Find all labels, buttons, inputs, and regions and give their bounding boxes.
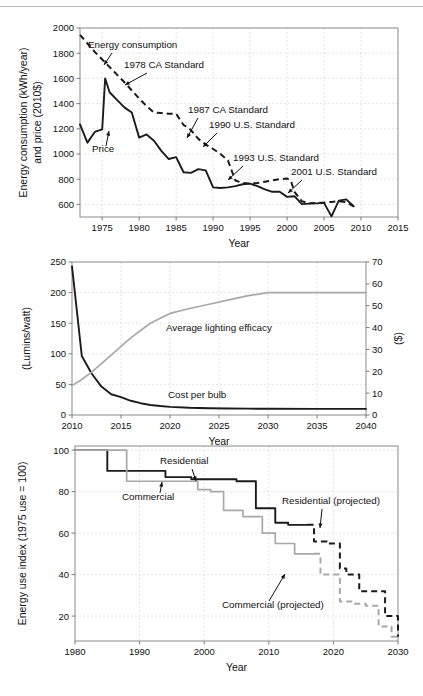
series-residential-projected xyxy=(308,525,398,637)
x-tick-label: 2000 xyxy=(194,646,215,657)
figure-root: 6008001000120014001600180020001975198019… xyxy=(0,0,423,696)
x-tick-label: 2030 xyxy=(257,420,278,431)
annotation-label: Cost per bulb xyxy=(168,389,227,400)
y-axis-title-line2: and price (2010$) xyxy=(31,81,43,163)
y-axis-right-title: ($) xyxy=(392,332,404,345)
panel-bottom: 20406080100198019902000201020202030Resid… xyxy=(16,445,409,673)
annotation-label: Price xyxy=(92,143,115,154)
y-tick-label: 1200 xyxy=(53,123,74,134)
annotation-arrowhead xyxy=(159,482,163,487)
x-tick-label: 1975 xyxy=(92,222,113,233)
x-tick-label: 2015 xyxy=(110,420,131,431)
y-tick-label: 0 xyxy=(61,409,66,420)
x-tick-label: 2030 xyxy=(387,646,408,657)
y-right-tick-label: 40 xyxy=(372,322,383,333)
x-tick-label: 2000 xyxy=(276,222,297,233)
x-tick-label: 2010 xyxy=(350,222,371,233)
annotation-label: Energy consumption xyxy=(88,39,177,50)
x-axis-title: Year xyxy=(226,661,248,673)
y-right-tick-label: 20 xyxy=(372,366,383,377)
y-tick-label: 1600 xyxy=(53,73,74,84)
y-tick-label: 200 xyxy=(50,287,66,298)
y-tick-label: 40 xyxy=(58,569,69,580)
annotation-label: 1978 CA Standard xyxy=(124,59,204,70)
annotation-arrowhead xyxy=(106,131,110,136)
y-tick-label: 800 xyxy=(58,174,74,185)
y-axis-title: (Lumins/watt) xyxy=(20,307,32,370)
y-tick-label: 1000 xyxy=(53,148,74,159)
annotation-label: Commercial xyxy=(122,491,174,502)
panel-bottom-plot-frame xyxy=(75,446,398,641)
annotation-leader xyxy=(269,574,285,601)
annotation-label: Residential xyxy=(160,455,208,466)
y-right-tick-label: 30 xyxy=(372,344,383,355)
x-tick-label: 2025 xyxy=(208,420,229,431)
y-tick-label: 20 xyxy=(58,611,69,622)
y-tick-label: 1800 xyxy=(53,48,74,59)
annotation-label: Residential (projected) xyxy=(282,495,380,506)
figure-canvas: 6008001000120014001600180020001975198019… xyxy=(0,0,423,696)
y-axis-title: Energy use index (1975 use = 100) xyxy=(16,462,28,626)
y-tick-label: 1400 xyxy=(53,98,74,109)
y-tick-label: 100 xyxy=(50,348,66,359)
y-right-tick-label: 60 xyxy=(372,278,383,289)
y-axis-title-line1: Energy consumption (kWh/year) xyxy=(17,48,29,198)
x-tick-label: 1980 xyxy=(64,646,85,657)
x-tick-label: 2035 xyxy=(306,420,327,431)
y-right-tick-label: 0 xyxy=(372,409,377,420)
page-top-rule xyxy=(0,6,423,7)
annotation-label: Average lighting efficacy xyxy=(166,322,272,333)
x-tick-label: 2040 xyxy=(355,420,376,431)
x-tick-label: 2020 xyxy=(159,420,180,431)
x-axis-title: Year xyxy=(228,237,250,249)
annotation-label: 1990 U.S. Standard xyxy=(209,119,295,130)
panel-middle: 0501001502002500102030405060702010201520… xyxy=(20,256,404,447)
x-tick-label: 2010 xyxy=(61,420,82,431)
y-tick-label: 60 xyxy=(58,528,69,539)
x-tick-label: 1985 xyxy=(166,222,187,233)
annotation-label: 1987 CA Standard xyxy=(188,104,268,115)
annotation-label: 2001 U.S. Standard xyxy=(291,166,377,177)
y-tick-label: 2000 xyxy=(53,22,74,33)
x-tick-label: 1990 xyxy=(129,646,150,657)
y-tick-label: 250 xyxy=(50,256,66,267)
x-tick-label: 1995 xyxy=(240,222,261,233)
annotation-label: Commercial (projected) xyxy=(222,599,324,610)
panel-top: 6008001000120014001600180020001975198019… xyxy=(17,22,409,249)
y-tick-label: 50 xyxy=(55,379,66,390)
x-tick-label: 1980 xyxy=(129,222,150,233)
y-tick-label: 100 xyxy=(53,445,69,456)
x-axis-title: Year xyxy=(208,435,230,447)
y-tick-label: 600 xyxy=(58,199,74,210)
y-right-tick-label: 50 xyxy=(372,300,383,311)
y-tick-label: 150 xyxy=(50,318,66,329)
x-tick-label: 1990 xyxy=(203,222,224,233)
series-commercial-projected xyxy=(314,554,398,637)
x-tick-label: 2005 xyxy=(313,222,334,233)
y-right-tick-label: 70 xyxy=(372,256,383,267)
y-tick-label: 80 xyxy=(58,486,69,497)
x-tick-label: 2020 xyxy=(323,646,344,657)
x-tick-label: 2015 xyxy=(387,222,408,233)
annotation-label: 1993 U.S. Standard xyxy=(233,152,319,163)
x-tick-label: 2010 xyxy=(258,646,279,657)
y-right-tick-label: 10 xyxy=(372,388,383,399)
series-price xyxy=(80,78,354,216)
